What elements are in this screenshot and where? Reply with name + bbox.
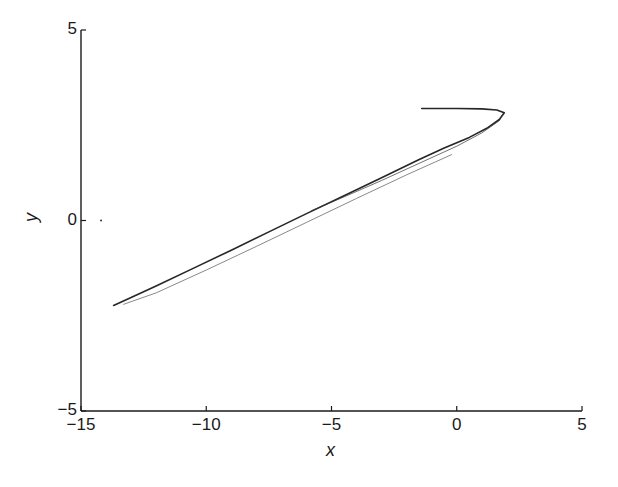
x-tick-label: −10: [192, 415, 221, 435]
series-line-trajectory-inner: [312, 114, 504, 211]
series-line-trajectory-lower-branch: [124, 155, 452, 305]
y-axis-label: y: [21, 213, 42, 222]
stray-point: [100, 220, 102, 222]
x-tick-label: −5: [322, 415, 341, 435]
chart-series: [100, 109, 504, 306]
y-tick-label: 0: [68, 210, 77, 230]
x-axis-label: x: [326, 440, 335, 461]
chart-plot: [0, 0, 618, 487]
y-tick-label: 5: [68, 19, 77, 39]
series-line-trajectory: [114, 109, 505, 306]
chart-axes: [81, 30, 582, 411]
y-tick-label: −5: [58, 400, 77, 420]
x-tick-label: 5: [577, 415, 586, 435]
x-tick-label: 0: [452, 415, 461, 435]
